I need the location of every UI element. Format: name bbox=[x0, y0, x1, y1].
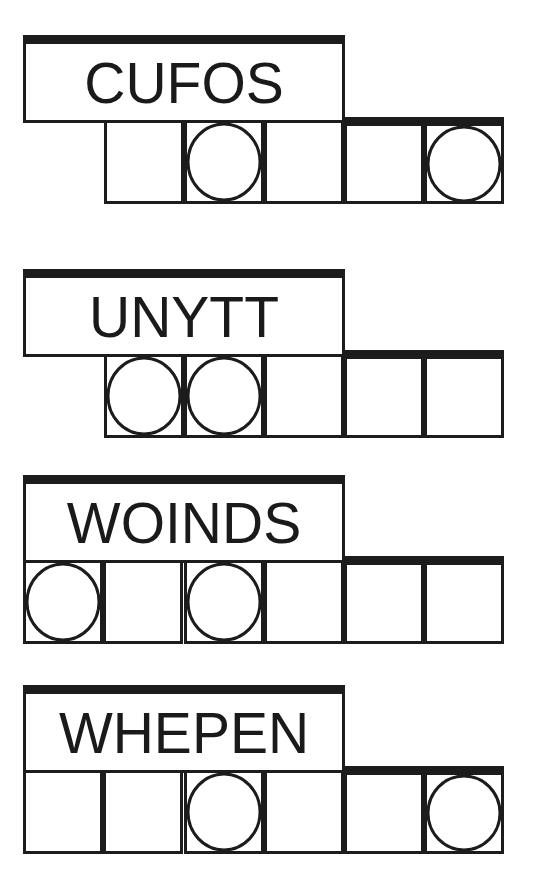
answer-cell[interactable] bbox=[424, 350, 504, 438]
answer-cell[interactable] bbox=[344, 350, 424, 438]
answer-cell-circled[interactable] bbox=[184, 770, 264, 854]
scrambled-word: CUFOS bbox=[84, 55, 284, 112]
answer-cell-circled[interactable] bbox=[424, 766, 504, 854]
answer-cell[interactable] bbox=[23, 770, 103, 854]
circle-marker-icon bbox=[187, 773, 261, 851]
answer-cell-circled[interactable] bbox=[424, 117, 504, 204]
circle-marker-icon bbox=[187, 563, 261, 641]
answer-cell[interactable] bbox=[264, 560, 344, 644]
answer-cell[interactable] bbox=[264, 354, 344, 438]
answer-cell[interactable] bbox=[264, 770, 344, 854]
answer-cell-circled[interactable] bbox=[23, 560, 103, 644]
circle-marker-icon bbox=[427, 775, 501, 851]
answer-cell[interactable] bbox=[424, 556, 504, 644]
circle-marker-icon bbox=[26, 563, 100, 641]
answer-cell-circled[interactable] bbox=[104, 354, 184, 438]
scrambled-word: WHEPEN bbox=[59, 705, 309, 762]
scrambled-word: UNYTT bbox=[89, 289, 279, 346]
answer-cell[interactable] bbox=[104, 120, 184, 204]
answer-cell[interactable] bbox=[344, 556, 424, 644]
scrambled-word-box: WHEPEN bbox=[23, 685, 345, 773]
scrambled-word-box: UNYTT bbox=[23, 269, 345, 357]
circle-marker-icon bbox=[427, 126, 501, 201]
answer-cell[interactable] bbox=[344, 117, 424, 204]
scrambled-word-box: CUFOS bbox=[23, 35, 345, 123]
answer-cell[interactable] bbox=[103, 770, 183, 854]
scrambled-word-box: WOINDS bbox=[23, 475, 345, 563]
scrambled-word: WOINDS bbox=[67, 495, 301, 552]
answer-cell-circled[interactable] bbox=[184, 354, 264, 438]
answer-cell[interactable] bbox=[103, 560, 183, 644]
circle-marker-icon bbox=[187, 357, 261, 435]
answer-cell-circled[interactable] bbox=[184, 560, 264, 644]
circle-marker-icon bbox=[187, 123, 261, 201]
answer-cell[interactable] bbox=[264, 120, 344, 204]
circle-marker-icon bbox=[107, 357, 181, 435]
answer-cell-circled[interactable] bbox=[184, 120, 264, 204]
answer-cell[interactable] bbox=[344, 766, 424, 854]
